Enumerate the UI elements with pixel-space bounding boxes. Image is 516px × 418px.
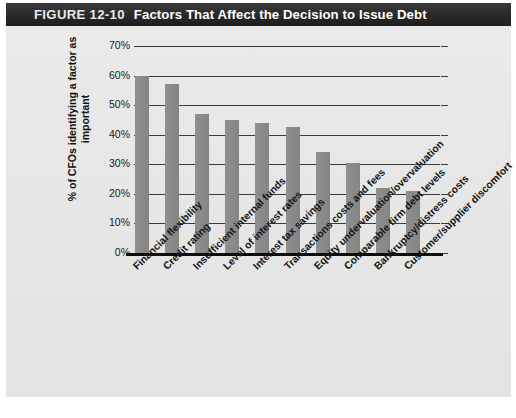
bar [346,163,360,253]
bar [225,120,239,253]
plot-area [134,46,440,253]
y-axis-tick-mark [441,223,448,224]
y-axis-tick-label: 20% [92,187,130,199]
y-axis-tick-label: 40% [92,128,130,140]
y-axis-tick-label: 50% [92,98,130,110]
y-axis-tick-mark [441,76,448,77]
bar [165,84,179,253]
y-axis-tick-label: 30% [92,157,130,169]
bar [195,114,209,253]
bar [406,191,420,253]
gridline [134,76,440,77]
y-axis-tick-label: 70% [92,39,130,51]
bar [316,152,330,253]
y-axis-tick-mark [441,105,448,106]
y-axis-tick-mark [441,194,448,195]
bar [255,123,269,253]
y-axis-tick-label: 10% [92,216,130,228]
figure-title-bar: FIGURE 12-10Factors That Affect the Deci… [6,3,511,26]
y-axis-tick-mark [441,46,448,47]
gridline [134,105,440,106]
figure-container: FIGURE 12-10Factors That Affect the Deci… [0,0,516,418]
y-axis-tick-mark [441,164,448,165]
y-axis-tick-labels: 0%10%20%30%40%50%60%70% [92,0,130,418]
bar [286,127,300,253]
y-axis-tick-label: 0% [92,246,130,258]
y-axis-tick-label: 60% [92,69,130,81]
y-axis-tick-mark [441,135,448,136]
x-axis-line [126,253,443,256]
gridline [134,46,440,47]
bar [376,188,390,253]
figure-caption: Factors That Affect the Decision to Issu… [134,3,427,26]
y-axis-title: % of CFOs identifying a factor as import… [66,29,92,209]
bar [135,76,149,253]
